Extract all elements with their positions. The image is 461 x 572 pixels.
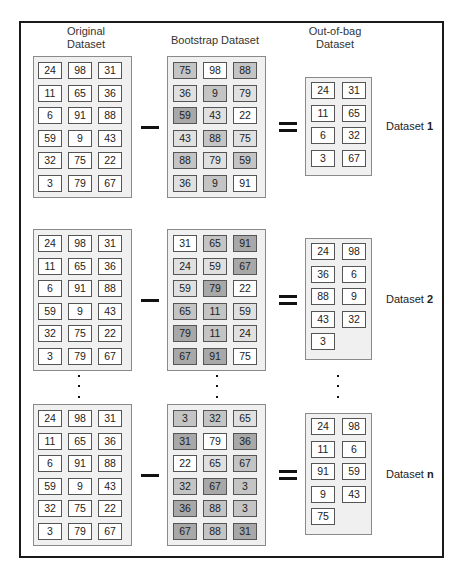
oob-cell: 43 (342, 486, 366, 503)
original-cell: 24 (38, 235, 62, 252)
original-cell: 9 (68, 303, 92, 320)
dataset-label-index: 2 (427, 293, 433, 305)
oob-cell: 32 (342, 127, 366, 144)
original-cell: 79 (68, 175, 92, 192)
oob-cell: 9 (311, 486, 335, 503)
bootstrap-cell: 11 (203, 325, 227, 342)
original-cell: 31 (98, 410, 122, 427)
oob-cell: 91 (311, 463, 335, 480)
bootstrap-cell: 32 (173, 478, 197, 495)
original-cell: 22 (98, 500, 122, 517)
minus-operator (141, 474, 159, 477)
original-cell: 91 (68, 455, 92, 472)
oob-cell: 11 (311, 105, 335, 122)
original-cell: 32 (38, 152, 62, 169)
oob-cell: 24 (311, 418, 335, 435)
original-cell: 36 (98, 85, 122, 102)
bootstrap-cell: 22 (233, 107, 257, 124)
ellipsis-dot (216, 396, 218, 398)
header-original: Original Dataset (56, 25, 116, 51)
bootstrap-cell: 67 (173, 348, 197, 365)
original-cell: 59 (38, 303, 62, 320)
ellipsis-dot (337, 385, 339, 387)
bootstrap-cell: 32 (203, 410, 227, 427)
original-cell: 88 (98, 280, 122, 297)
ellipsis-dot (78, 385, 80, 387)
header-oob: Out-of-bag Dataset (295, 25, 375, 51)
original-cell: 11 (38, 433, 62, 450)
original-cell: 91 (68, 280, 92, 297)
original-cell: 43 (98, 130, 122, 147)
bootstrap-cell: 79 (203, 433, 227, 450)
original-cell: 32 (38, 500, 62, 517)
bootstrap-cell: 22 (233, 280, 257, 297)
original-cell: 6 (38, 455, 62, 472)
original-cell: 79 (68, 523, 92, 540)
original-cell: 91 (68, 107, 92, 124)
header-bootstrap: Bootstrap Dataset (160, 34, 270, 47)
bootstrap-cell: 79 (203, 280, 227, 297)
original-cell: 36 (98, 258, 122, 275)
bootstrap-cell: 31 (233, 523, 257, 540)
bootstrap-cell: 22 (173, 455, 197, 472)
original-cell: 31 (98, 62, 122, 79)
bootstrap-cell: 79 (203, 152, 227, 169)
original-cell: 67 (98, 348, 122, 365)
original-cell: 31 (98, 235, 122, 252)
bootstrap-cell: 79 (173, 325, 197, 342)
ellipsis-dot (216, 385, 218, 387)
original-cell: 75 (68, 500, 92, 517)
original-cell: 6 (38, 280, 62, 297)
oob-cell: 67 (342, 150, 366, 167)
dataset-label-index: n (427, 468, 434, 480)
bootstrap-cell: 88 (173, 152, 197, 169)
original-cell: 3 (38, 523, 62, 540)
original-cell: 98 (68, 235, 92, 252)
bootstrap-cell: 67 (233, 455, 257, 472)
original-cell: 43 (98, 478, 122, 495)
ellipsis-dot (337, 375, 339, 377)
oob-cell: 88 (311, 288, 335, 305)
bootstrap-cell: 75 (173, 62, 197, 79)
original-cell: 88 (98, 107, 122, 124)
oob-cell: 59 (342, 463, 366, 480)
oob-cell: 32 (342, 311, 366, 328)
equals-operator (279, 470, 297, 480)
ellipsis-dot (78, 375, 80, 377)
original-cell: 98 (68, 62, 92, 79)
bootstrap-cell: 88 (233, 62, 257, 79)
original-cell: 65 (68, 433, 92, 450)
dataset-label-index: 1 (427, 120, 433, 132)
original-cell: 6 (38, 107, 62, 124)
dataset-label-prefix: Dataset (386, 293, 427, 305)
bootstrap-cell: 36 (233, 433, 257, 450)
bootstrap-cell: 11 (203, 303, 227, 320)
ellipsis-dot (216, 375, 218, 377)
bootstrap-cell: 24 (173, 258, 197, 275)
bootstrap-cell: 65 (203, 455, 227, 472)
bootstrap-cell: 36 (173, 175, 197, 192)
dataset-label-prefix: Dataset (386, 120, 427, 132)
original-cell: 98 (68, 410, 92, 427)
oob-cell: 9 (342, 288, 366, 305)
bootstrap-cell: 59 (203, 258, 227, 275)
original-cell: 67 (98, 523, 122, 540)
bootstrap-cell: 65 (173, 303, 197, 320)
dataset-label-prefix: Dataset (386, 468, 427, 480)
original-cell: 9 (68, 130, 92, 147)
bootstrap-cell: 9 (203, 175, 227, 192)
oob-cell: 11 (311, 441, 335, 458)
original-cell: 22 (98, 325, 122, 342)
oob-cell: 24 (311, 82, 335, 99)
bootstrap-cell: 59 (233, 303, 257, 320)
bootstrap-cell: 43 (173, 130, 197, 147)
bootstrap-cell: 3 (173, 410, 197, 427)
bootstrap-cell: 3 (233, 478, 257, 495)
oob-cell: 24 (311, 243, 335, 260)
oob-cell: 36 (311, 266, 335, 283)
bootstrap-cell: 31 (173, 235, 197, 252)
oob-cell: 98 (342, 418, 366, 435)
dataset-label: Dataset 2 (386, 293, 433, 305)
oob-cell: 6 (342, 441, 366, 458)
oob-cell: 6 (342, 266, 366, 283)
